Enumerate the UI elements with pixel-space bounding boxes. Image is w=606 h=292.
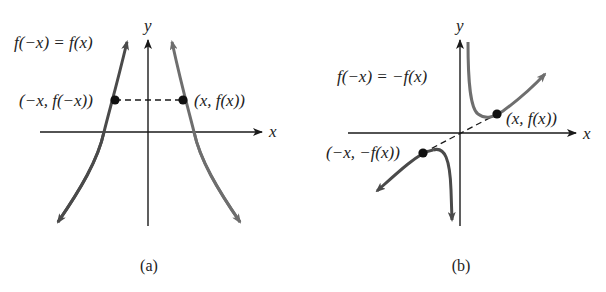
point-left-label-a: (−x, f(−x)) [19, 91, 93, 110]
point-right-b [492, 109, 501, 118]
symmetry-figure: f(−x) = f(x) (−x, f(−x)) (x, f(x)) x y (… [0, 0, 606, 292]
curve-right-branch-b [468, 42, 545, 117]
y-axis-label-b: y [454, 16, 464, 35]
equation-b: f(−x) = −f(x) [337, 67, 427, 86]
point-right-label-a: (x, f(x)) [194, 91, 245, 110]
point-left-label-b: (−x, −f(x)) [326, 143, 400, 162]
caption-a: (a) [140, 257, 158, 275]
x-axis-label-a: x [268, 122, 277, 141]
point-left-b [418, 148, 427, 157]
panel-b: f(−x) = −f(x) (−x, −f(x)) (x, f(x)) x y … [326, 16, 591, 275]
panel-a: f(−x) = f(x) (−x, f(−x)) (x, f(x)) x y (… [14, 16, 277, 275]
point-right-label-b: (x, f(x)) [506, 109, 557, 128]
caption-b: (b) [452, 257, 471, 275]
point-left-a [110, 95, 119, 104]
equation-a: f(−x) = f(x) [14, 33, 93, 52]
y-axis-label-a: y [142, 16, 152, 35]
point-right-a [178, 95, 187, 104]
x-axis-label-b: x [582, 124, 591, 143]
curve-left-branch-b [433, 149, 452, 220]
